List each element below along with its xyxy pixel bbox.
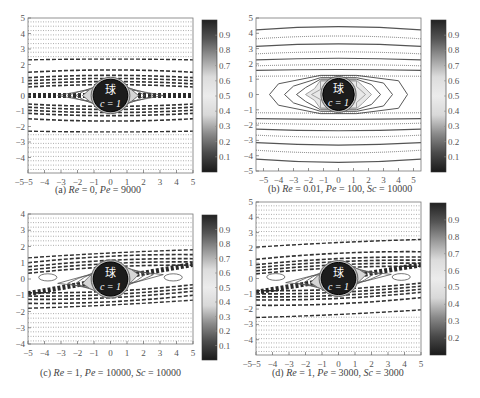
x-tick-label: −5 xyxy=(251,359,261,369)
colorbar-tick-label: 0.7 xyxy=(448,249,460,259)
y-tick-label: 3 xyxy=(249,228,254,238)
y-tick-label: −1 xyxy=(243,289,253,299)
sphere-concentration: c = 1 xyxy=(328,281,349,292)
colorbar-tick-label: 0.3 xyxy=(448,316,460,326)
colorbar-tick-label: 0.9 xyxy=(448,215,460,225)
x-tick-label: 5 xyxy=(419,359,424,369)
colorbar-tick-label: 0.6 xyxy=(448,266,460,276)
caption-d: (d) Re = 1, Pe = 3000, Sc = 3000 xyxy=(272,367,404,378)
sphere-label: 球 xyxy=(333,266,344,280)
y-tick-label: 0 xyxy=(249,274,254,284)
colorbar-tick-label: 0.8 xyxy=(448,232,460,242)
y-tick-label: 5 xyxy=(249,197,254,207)
y-tick-label: −4 xyxy=(243,335,253,345)
y-tick-label: 4 xyxy=(249,212,254,222)
y-tick-label: −5 xyxy=(242,359,252,369)
colorbar-tick-label: 0.2 xyxy=(448,333,459,343)
y-tick-label: 1 xyxy=(249,258,254,268)
contour-plot-d: 球c = 1−5−4−3−2−1012345−5543210−1−2−3−40.… xyxy=(0,0,480,398)
colorbar-tick-label: 0.5 xyxy=(448,282,460,292)
y-tick-label: −3 xyxy=(243,319,253,329)
y-tick-label: 2 xyxy=(249,243,254,253)
y-tick-label: −2 xyxy=(243,304,253,314)
colorbar-tick-label: 0.4 xyxy=(448,299,460,309)
colorbar xyxy=(430,203,446,355)
